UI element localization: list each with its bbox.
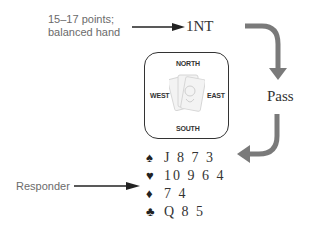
flow-arrow-down-icon [240,20,290,92]
seat-west: WEST [150,92,169,99]
hand-row-hearts: ♥10 9 6 4 [146,168,226,184]
spade-cards: J 8 7 3 [164,150,215,165]
seat-east: EAST [207,92,225,99]
hand-row-clubs: ♣Q 8 5 [146,204,205,220]
heart-icon: ♥ [146,168,164,184]
opener-label-line1: 15–17 points; [48,13,120,26]
arrow-right-icon [130,22,186,32]
responder-label: Responder [16,180,70,193]
card-deck-icon [169,71,205,117]
seat-south: SOUTH [176,125,200,132]
opener-bid: 1NT [186,18,214,35]
bridge-table: NORTH WEST EAST SOUTH [144,52,229,139]
spade-icon: ♠ [146,150,164,166]
diamond-cards: 7 4 [164,186,188,201]
hand-row-spades: ♠J 8 7 3 [146,150,215,166]
arrow-right-icon [73,181,141,191]
club-cards: Q 8 5 [164,204,205,219]
heart-cards: 10 9 6 4 [164,168,226,183]
seat-north: NORTH [176,60,200,67]
opener-label-line2: balanced hand [48,26,120,39]
club-icon: ♣ [146,204,164,220]
hand-row-diamonds: ♦7 4 [146,186,188,202]
opponent-bid: Pass [267,88,294,105]
diamond-icon: ♦ [146,186,164,202]
opener-label: 15–17 points; balanced hand [48,13,120,39]
flow-arrow-left-icon [235,112,285,164]
